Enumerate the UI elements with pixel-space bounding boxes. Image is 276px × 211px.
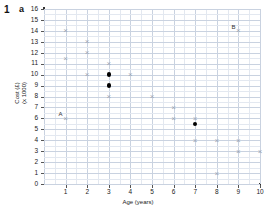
data-point-cross: [192, 115, 199, 122]
scatter-plot-figure: 1 a AB 012345678910111213141516 12345678…: [0, 0, 276, 211]
data-point-cross: [213, 170, 220, 177]
x-tick-mark: [195, 185, 196, 188]
y-tick-mark: [41, 107, 44, 108]
data-point-cross: [170, 104, 177, 111]
y-tick-label: 3: [22, 148, 38, 155]
data-point-cross: [84, 38, 91, 45]
data-point-cross: [192, 137, 199, 144]
y-tick-mark: [41, 64, 44, 65]
x-tick-label: 4: [124, 189, 136, 196]
y-tick-mark: [41, 20, 44, 21]
question-number: 1: [4, 4, 10, 15]
data-point-cross: [62, 27, 69, 34]
y-tick-mark: [41, 118, 44, 119]
y-tick-mark: [41, 151, 44, 152]
y-tick-label: 1: [22, 170, 38, 177]
y-tick-mark: [41, 129, 44, 130]
point-annotation-label: B: [231, 24, 235, 30]
y-tick-label: 15: [22, 17, 38, 24]
x-tick-label: 9: [232, 189, 244, 196]
y-tick-mark: [41, 97, 44, 98]
x-tick-mark: [66, 185, 67, 188]
x-tick-mark: [174, 185, 175, 188]
x-tick-mark: [260, 185, 261, 188]
data-point-cross: [105, 60, 112, 67]
y-tick-mark: [41, 75, 44, 76]
data-point-filled: [193, 122, 198, 127]
x-tick-mark: [238, 185, 239, 188]
y-tick-label: 2: [22, 159, 38, 166]
data-point-cross: [235, 148, 242, 155]
gridline-vertical: [260, 9, 261, 184]
x-tick-label: 6: [168, 189, 180, 196]
x-tick-label: 1: [60, 189, 72, 196]
x-tick-label: 10: [254, 189, 266, 196]
x-tick-label: 3: [103, 189, 115, 196]
y-tick-label: 13: [22, 39, 38, 46]
x-tick-label: 7: [189, 189, 201, 196]
data-point-cross: [62, 115, 69, 122]
y-tick-mark: [41, 9, 44, 10]
x-tick-label: 2: [81, 189, 93, 196]
y-tick-label: 4: [22, 137, 38, 144]
data-point-cross: [149, 93, 156, 100]
y-tick-mark: [41, 42, 44, 43]
data-point-filled: [107, 83, 112, 88]
data-point-cross: [62, 55, 69, 62]
data-point-cross: [235, 27, 242, 34]
x-tick-label: 8: [211, 189, 223, 196]
data-point-cross: [127, 71, 134, 78]
y-axis-title-line1: Cost (£): [14, 82, 20, 103]
y-tick-mark: [41, 86, 44, 87]
y-tick-mark: [41, 184, 44, 185]
y-tick-label: 16: [22, 6, 38, 13]
x-tick-mark: [87, 185, 88, 188]
data-point-cross: [170, 115, 177, 122]
data-point-cross: [84, 71, 91, 78]
point-annotation-label: A: [59, 111, 63, 117]
y-axis-title: Cost (£) (x 1000): [14, 53, 28, 133]
y-tick-mark: [41, 140, 44, 141]
y-tick-label: 14: [22, 28, 38, 35]
data-point-cross: [257, 148, 264, 155]
data-point-cross: [213, 137, 220, 144]
y-axis-title-line2: (x 1000): [21, 82, 27, 104]
x-tick-mark: [152, 185, 153, 188]
data-point-cross: [235, 137, 242, 144]
y-tick-mark: [41, 53, 44, 54]
data-points-layer: AB: [44, 9, 260, 184]
x-axis-title: Age (years): [0, 199, 276, 205]
data-point-cross: [84, 49, 91, 56]
plot-area: AB: [44, 9, 260, 184]
y-tick-mark: [41, 173, 44, 174]
y-tick-mark: [41, 162, 44, 163]
data-point-cross: [105, 93, 112, 100]
data-point-filled: [107, 72, 112, 77]
x-tick-label: 5: [146, 189, 158, 196]
y-tick-label: 0: [22, 181, 38, 188]
x-tick-mark: [109, 185, 110, 188]
x-tick-mark: [217, 185, 218, 188]
y-tick-mark: [41, 31, 44, 32]
x-tick-mark: [130, 185, 131, 188]
